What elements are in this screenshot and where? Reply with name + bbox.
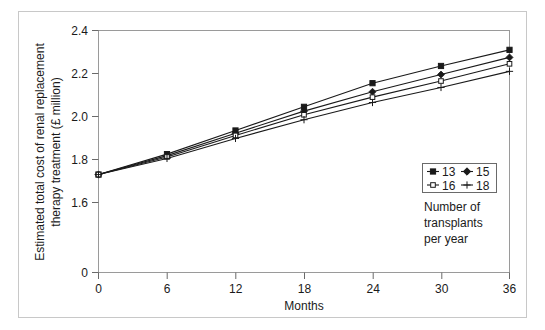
legend-caption-line2: transplants	[424, 216, 483, 230]
x-tick-label-24: 24	[367, 282, 381, 296]
legend-caption-line1: Number of	[424, 200, 481, 214]
legend-label-13: 13	[442, 165, 456, 179]
y-tick-label-0: 0	[81, 266, 88, 280]
legend-label-16: 16	[442, 179, 456, 193]
legend-marker-open-square-icon	[431, 183, 436, 188]
figure-root: 2.4 2.2 2.0 1.8 1.6 0 0 6 12 18 24 30 36…	[0, 0, 545, 330]
y-tick-label-2-4: 2.4	[71, 24, 88, 38]
x-tick-label-18: 18	[298, 282, 312, 296]
legend-marker-filled-square-icon	[430, 169, 435, 174]
line-chart: 2.4 2.2 2.0 1.8 1.6 0 0 6 12 18 24 30 36…	[0, 0, 545, 330]
y-axis-ticks	[92, 31, 99, 273]
x-axis-ticks	[99, 273, 510, 280]
y-tick-label-1-8: 1.8	[71, 153, 88, 167]
legend-caption-line3: per year	[424, 232, 468, 246]
y-tick-label-2-0: 2.0	[71, 110, 88, 124]
legend-label-15: 15	[476, 165, 490, 179]
y-axis-title-line1: Estimated total cost of renal replacemen…	[33, 43, 47, 261]
x-tick-label-0: 0	[95, 282, 102, 296]
x-axis-title: Months	[284, 299, 323, 313]
y-tick-label-1-6: 1.6	[71, 196, 88, 210]
y-tick-label-2-2: 2.2	[71, 67, 88, 81]
x-tick-label-12: 12	[229, 282, 243, 296]
x-tick-label-30: 30	[435, 282, 449, 296]
legend-label-18: 18	[476, 179, 490, 193]
x-tick-label-6: 6	[164, 282, 171, 296]
x-tick-label-36: 36	[503, 282, 517, 296]
y-axis-title-line2: therapy treatment (£ million)	[49, 77, 63, 226]
